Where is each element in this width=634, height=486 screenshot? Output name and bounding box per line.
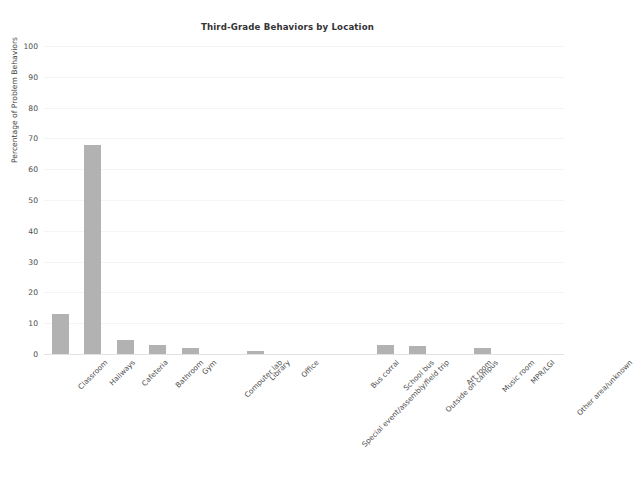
x-tick-label: Library [268, 358, 292, 382]
y-tick-label: 60 [4, 165, 38, 174]
x-tick-label: Gym [200, 358, 218, 376]
y-axis-tick-labels: 0102030405060708090100 [0, 46, 38, 354]
bar[interactable] [84, 145, 101, 354]
y-tick-label: 10 [4, 319, 38, 328]
gridline [44, 108, 564, 109]
gridline [44, 46, 564, 47]
y-tick-label: 90 [4, 72, 38, 81]
x-tick-label: Cafeteria [140, 358, 170, 388]
bar[interactable] [409, 346, 426, 354]
y-tick-label: 100 [4, 42, 38, 51]
x-tick-label: Office [299, 358, 320, 379]
x-tick-label: Other area/unknown [575, 358, 634, 417]
plot-area [44, 46, 564, 354]
x-tick-label: Classroom [76, 358, 109, 391]
bar[interactable] [149, 345, 166, 354]
gridline [44, 200, 564, 201]
y-tick-label: 20 [4, 288, 38, 297]
x-tick-label: Special event/assembly/field trip [360, 358, 451, 449]
gridline [44, 169, 564, 170]
bar[interactable] [377, 345, 394, 354]
y-tick-label: 40 [4, 226, 38, 235]
x-axis-line [44, 354, 564, 355]
y-tick-label: 0 [4, 350, 38, 359]
gridline [44, 231, 564, 232]
y-tick-label: 50 [4, 196, 38, 205]
bar[interactable] [52, 314, 69, 354]
chart-title: Third-Grade Behaviors by Location [0, 22, 575, 32]
y-tick-label: 30 [4, 257, 38, 266]
bar[interactable] [117, 340, 134, 354]
gridline [44, 292, 564, 293]
x-tick-label: Hallways [107, 358, 136, 387]
gridline [44, 77, 564, 78]
x-tick-label: Bathroom [173, 358, 205, 390]
x-tick-label: Bus corral [368, 358, 400, 390]
gridline [44, 262, 564, 263]
y-tick-label: 80 [4, 103, 38, 112]
gridline [44, 323, 564, 324]
y-tick-label: 70 [4, 134, 38, 143]
gridline [44, 138, 564, 139]
